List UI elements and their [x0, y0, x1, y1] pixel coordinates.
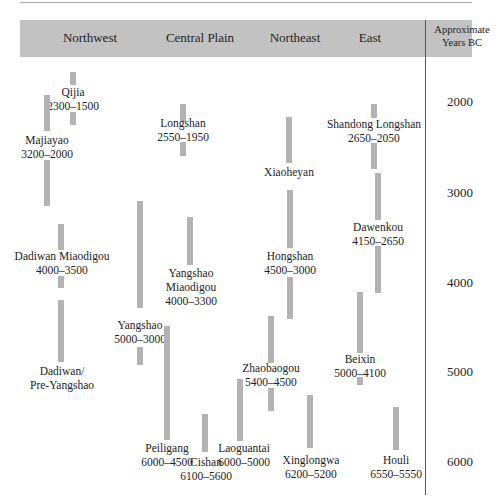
culture-dates: 2300–1500 — [47, 99, 99, 113]
culture-name: Majiayao — [21, 133, 73, 147]
top-rule — [20, 2, 472, 3]
bar-cishan — [202, 414, 208, 452]
tick-label-5000: 5000 — [440, 364, 480, 380]
culture-dates: 5000–3000 — [114, 332, 166, 346]
bar-xiaoheyan — [286, 117, 292, 163]
bar-dadiwan-miaodigou-lower — [58, 276, 64, 288]
bar-dawenkou-lower — [375, 246, 381, 293]
label-zhaobaogou: Zhaobaogou 5400–4500 — [242, 361, 299, 389]
bar-peiligang — [164, 326, 170, 440]
label-yangshao: Yangshao 5000–3000 — [114, 318, 166, 346]
column-header-central-plain: Central Plain — [150, 30, 250, 46]
culture-name: Yangshao — [114, 318, 166, 332]
bar-zhaobaogou-upper — [268, 316, 274, 363]
culture-dates: 5400–4500 — [242, 375, 299, 389]
bar-majiayao-lower — [44, 160, 50, 206]
label-qijia: Qijia 2300–1500 — [47, 85, 99, 113]
culture-name: Qijia — [47, 85, 99, 99]
culture-name: Dadiwan Miaodigou — [15, 249, 110, 263]
culture-name-line2: Pre-Yangshao — [30, 378, 94, 392]
culture-name: Zhaobaogou — [242, 361, 299, 375]
bar-dadiwan-miaodigou-upper — [58, 224, 64, 250]
axis-title-line1: Approximate — [426, 23, 498, 36]
culture-name-line1: Dadiwan/ — [30, 364, 94, 378]
culture-dates: 2650–2050 — [327, 131, 421, 145]
bar-hongshan-lower — [287, 277, 293, 319]
culture-name: Peiligang — [141, 441, 193, 455]
culture-name: Xinglongwa — [283, 453, 340, 467]
label-xinglongwa: Xinglongwa 6200–5200 — [283, 453, 340, 481]
tick-label-3000: 3000 — [440, 185, 480, 201]
culture-name: Shandong Longshan — [327, 117, 421, 131]
culture-name-line2: Miaodigou — [165, 280, 217, 294]
label-shandong-longshan: Shandong Longshan 2650–2050 — [327, 117, 421, 145]
tick-label-2000: 2000 — [440, 94, 480, 110]
culture-dates: 2550–1950 — [157, 130, 209, 144]
bar-yangshao-lower — [137, 347, 143, 365]
bar-beixin-upper — [357, 292, 363, 353]
bar-yangshao-upper — [137, 201, 143, 308]
axis-title: Approximate Years BC — [426, 23, 498, 49]
column-header-northwest: Northwest — [45, 30, 135, 46]
bar-shandong-longshan-lower — [371, 143, 377, 169]
tick-label-4000: 4000 — [440, 275, 480, 291]
culture-dates: 4000–3300 — [165, 294, 217, 308]
label-hongshan: Hongshan 4500–3000 — [264, 249, 316, 277]
culture-name-line1: Yangshao — [165, 266, 217, 280]
label-dawenkou: Dawenkou 4150–2650 — [352, 220, 404, 248]
label-majiayao: Majiayao 3200–2000 — [21, 133, 73, 161]
bar-houli — [393, 407, 399, 450]
bar-dadiwan-pre-yangshao — [58, 300, 64, 362]
culture-dates: 4150–2650 — [352, 234, 404, 248]
culture-name: Dawenkou — [352, 220, 404, 234]
column-header-east: East — [340, 30, 400, 46]
culture-name: Xiaoheyan — [264, 165, 314, 179]
tick-label-6000: 6000 — [440, 454, 480, 470]
culture-dates: 6000–5000 — [218, 455, 270, 469]
bar-majiayao-upper — [44, 95, 50, 131]
bar-dawenkou-upper — [375, 173, 381, 220]
bar-qijia-upper — [70, 72, 76, 85]
bar-hongshan-upper — [287, 190, 293, 248]
culture-dates: 4000–3500 — [15, 263, 110, 277]
column-header-northeast: Northeast — [250, 30, 340, 46]
bar-qijia-lower — [70, 112, 76, 125]
label-xiaoheyan: Xiaoheyan — [264, 165, 314, 179]
culture-dates: 6200–5200 — [283, 467, 340, 481]
axis-title-line2: Years BC — [426, 36, 498, 49]
label-houli: Houli 6550–5550 — [370, 453, 422, 481]
culture-name: Hongshan — [264, 249, 316, 263]
bar-longshan-lower — [180, 142, 186, 156]
label-dadiwan-pre-yangshao: Dadiwan/ Pre-Yangshao — [30, 364, 94, 392]
culture-dates: 6100–5600 — [180, 469, 232, 483]
label-dadiwan-miaodigou: Dadiwan Miaodigou 4000–3500 — [15, 249, 110, 277]
bar-xinglongwa — [307, 395, 313, 448]
culture-dates: 4500–3000 — [264, 263, 316, 277]
culture-dates: 6550–5550 — [370, 467, 422, 481]
axis-divider-line — [425, 20, 426, 495]
culture-dates: 3200–2000 — [21, 147, 73, 161]
culture-name: Laoguantai — [218, 441, 270, 455]
bar-zhaobaogou-lower — [268, 388, 274, 411]
culture-name: Houli — [370, 453, 422, 467]
label-laoguantai: Laoguantai 6000–5000 — [218, 441, 270, 469]
bar-yangshao-miaodigou — [187, 217, 193, 265]
culture-dates: 5000–4100 — [334, 366, 386, 380]
culture-name: Longshan — [157, 116, 209, 130]
label-longshan: Longshan 2550–1950 — [157, 116, 209, 144]
bar-shandong-longshan-upper — [371, 104, 377, 118]
culture-name: Beixin — [334, 352, 386, 366]
label-beixin: Beixin 5000–4100 — [334, 352, 386, 380]
label-yangshao-miaodigou: Yangshao Miaodigou 4000–3300 — [165, 266, 217, 308]
